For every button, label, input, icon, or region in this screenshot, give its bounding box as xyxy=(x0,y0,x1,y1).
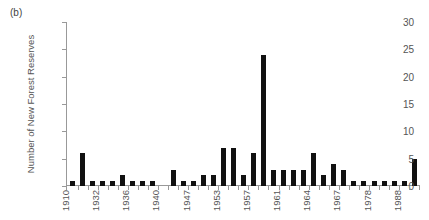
x-tick xyxy=(379,186,380,190)
bar xyxy=(231,148,236,186)
x-tick xyxy=(289,186,290,190)
plot-area: 0510152025301910193219361940194719531957… xyxy=(66,22,420,186)
bar xyxy=(110,181,115,186)
bar xyxy=(361,181,366,186)
x-tick-label: 1936 xyxy=(120,190,131,211)
x-tick-label: 1947 xyxy=(180,190,191,211)
bar xyxy=(351,181,356,186)
y-axis-label: Number of New Forest Reserves xyxy=(25,35,36,173)
x-tick-label: 1961 xyxy=(271,190,282,211)
bar xyxy=(80,153,85,186)
x-tick-label: 1964 xyxy=(301,190,312,211)
bar xyxy=(301,170,306,186)
x-tick xyxy=(238,186,239,190)
bar xyxy=(241,175,246,186)
x-tick-label: 1910 xyxy=(60,190,71,211)
x-tick xyxy=(78,186,79,190)
x-tick-label: 1988 xyxy=(391,190,402,211)
x-tick xyxy=(258,186,259,190)
bar xyxy=(261,55,266,186)
y-tick-label: 30 xyxy=(403,17,414,28)
bar xyxy=(70,181,75,186)
y-tick xyxy=(62,49,66,50)
x-tick xyxy=(349,186,350,190)
x-tick xyxy=(138,186,139,190)
x-tick xyxy=(198,186,199,190)
y-tick xyxy=(62,104,66,105)
bar xyxy=(120,175,125,186)
bar xyxy=(311,153,316,186)
bar xyxy=(331,164,336,186)
bar xyxy=(201,175,206,186)
x-tick xyxy=(389,186,390,190)
bar xyxy=(90,181,95,186)
x-tick-label: 1932 xyxy=(90,190,101,211)
y-tick-label: 5 xyxy=(408,153,414,164)
x-tick xyxy=(299,186,300,190)
x-tick xyxy=(88,186,89,190)
bar xyxy=(402,181,407,186)
bar xyxy=(271,170,276,186)
y-tick-label: 15 xyxy=(403,99,414,110)
y-tick xyxy=(62,22,66,23)
x-tick xyxy=(108,186,109,190)
y-tick-label: 10 xyxy=(403,126,414,137)
bar xyxy=(372,181,377,186)
y-tick-label: 20 xyxy=(403,71,414,82)
y-tick xyxy=(62,131,66,132)
y-tick xyxy=(62,159,66,160)
x-tick xyxy=(268,186,269,190)
x-tick xyxy=(409,186,410,190)
bar xyxy=(291,170,296,186)
bar xyxy=(341,170,346,186)
bar xyxy=(321,175,326,186)
x-tick xyxy=(178,186,179,190)
x-tick xyxy=(228,186,229,190)
bar xyxy=(191,181,196,186)
bar xyxy=(100,181,105,186)
bar xyxy=(140,181,145,186)
bar xyxy=(382,181,387,186)
y-tick-label: 25 xyxy=(403,44,414,55)
bar xyxy=(281,170,286,186)
x-tick-label: 1967 xyxy=(331,190,342,211)
bar xyxy=(171,170,176,186)
x-tick xyxy=(419,186,420,190)
bar xyxy=(392,181,397,186)
x-tick xyxy=(319,186,320,190)
bar xyxy=(181,181,186,186)
x-tick-label: 1957 xyxy=(240,190,251,211)
bar xyxy=(150,181,155,186)
y-tick xyxy=(62,77,66,78)
bar xyxy=(251,153,256,186)
bar xyxy=(221,148,226,186)
bar-series xyxy=(66,22,420,186)
x-tick-label: 1940 xyxy=(150,190,161,211)
x-tick xyxy=(359,186,360,190)
bar xyxy=(211,175,216,186)
x-tick xyxy=(208,186,209,190)
x-tick-label: 1953 xyxy=(210,190,221,211)
x-tick-label: 1978 xyxy=(361,190,372,211)
bar xyxy=(130,181,135,186)
x-tick xyxy=(168,186,169,190)
panel-label: (b) xyxy=(10,7,22,18)
